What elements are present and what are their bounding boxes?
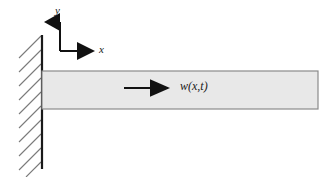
coordinate-axes [60,22,93,51]
wall-hatching [19,36,41,177]
y-axis-label: y [55,5,60,16]
cantilever-beam-figure: y x w(x,t) [0,0,330,177]
x-axis-label: x [99,44,104,55]
deflection-function-label: w(x,t) [180,80,208,92]
figure-canvas [0,0,330,177]
